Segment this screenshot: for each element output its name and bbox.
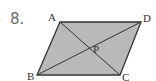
vertex-label-d: D xyxy=(143,12,151,24)
vertex-label-b: B xyxy=(27,70,34,81)
parallelogram-diagram: A D B C P xyxy=(0,0,156,81)
vertex-label-a: A xyxy=(48,11,56,23)
vertex-label-c: C xyxy=(122,71,129,81)
intersection-label-p: P xyxy=(93,43,99,55)
